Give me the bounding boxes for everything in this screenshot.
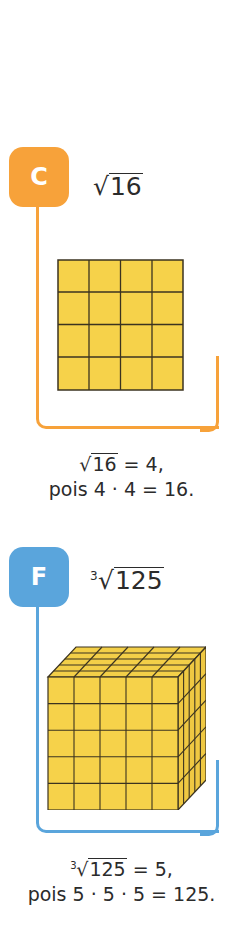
cube-grid-figure [46, 645, 206, 810]
badge-f: F [9, 547, 69, 607]
square-root: √16 [93, 172, 143, 202]
caption-c-line2: pois 4 · 4 = 16. [0, 477, 243, 502]
caption-f-line2: pois 5 · 5 · 5 = 125. [0, 882, 243, 907]
caption-result: = 4, [118, 453, 164, 475]
caption-root-index: 3 [70, 853, 76, 878]
root-index: 3 [90, 561, 98, 591]
badge-letter: C [30, 163, 48, 191]
caption-f-line1: 3 √125 = 5, [0, 857, 243, 882]
caption-c: √16 = 4, pois 4 · 4 = 16. [0, 452, 243, 502]
cube-root: 3 √125 [90, 566, 164, 596]
badge-letter: F [31, 563, 47, 591]
caption-radicand: 16 [91, 453, 117, 475]
square-grid-figure [57, 259, 184, 391]
expression-f: 3 √125 [90, 566, 164, 596]
caption-radicand: 125 [88, 858, 126, 880]
radicand: 16 [109, 173, 143, 200]
caption-c-line1: √16 = 4, [0, 452, 243, 477]
radicand: 125 [114, 567, 164, 594]
badge-c: C [9, 147, 69, 207]
connector-line-c-right [200, 356, 219, 432]
caption-f: 3 √125 = 5, pois 5 · 5 · 5 = 125. [0, 857, 243, 907]
caption-result: = 5, [127, 858, 173, 880]
expression-c: √16 [93, 172, 143, 202]
